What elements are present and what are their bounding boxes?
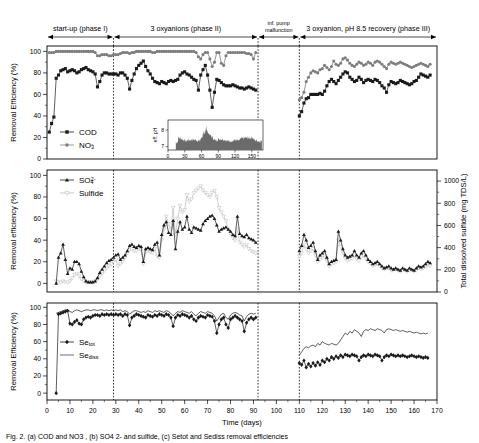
xtick-label-70: 70 xyxy=(204,407,212,414)
legend-panel-a-label-0: COD xyxy=(79,128,97,137)
xtick-label-0: 0 xyxy=(45,407,49,414)
ytick-label-c-20: 20 xyxy=(33,372,41,379)
phase-bar-4-arrow-left xyxy=(300,35,305,39)
inset-ylabel: eff. pH xyxy=(152,127,158,142)
xtick-label-40: 40 xyxy=(135,407,143,414)
ytick-label-b-200-right: 200 xyxy=(444,266,456,273)
panel-b-ylabel: Removal efficiency (%) xyxy=(9,192,18,270)
ytick-label-a-60: 60 xyxy=(33,91,41,98)
legend-panel-a-label-1: NO3- xyxy=(79,141,94,150)
series-c-Sediss xyxy=(56,310,428,355)
legend-panel-c-entry-0 xyxy=(60,340,74,345)
phase-bar-2-arrow-right xyxy=(252,35,257,39)
panel-c-ylabel: Removal Efficiency (%) xyxy=(9,312,18,391)
xtick-label-30: 30 xyxy=(112,407,120,414)
xtick-label-60: 60 xyxy=(181,407,189,414)
inset-xtick-label-60: 60 xyxy=(199,153,205,159)
phase-label-4: 3 oxyanion, pH 8.5 recovery (phase III) xyxy=(306,24,430,33)
phase-label-1: start-up (phase I) xyxy=(53,24,108,33)
ytick-label-a-20: 20 xyxy=(33,134,41,141)
xtick-label-90: 90 xyxy=(250,407,258,414)
series-a-COD xyxy=(48,0,434,134)
ytick-label-c-0: 0 xyxy=(37,390,41,397)
phase-label-3b: malfunction xyxy=(265,27,293,33)
figure-svg: start-up (phase I)3 oxyanions (phase II)… xyxy=(0,0,479,443)
xtick-label-80: 80 xyxy=(227,407,235,414)
figure-container: start-up (phase I)3 oxyanions (phase II)… xyxy=(0,0,479,443)
ytick-label-b-0-right: 0 xyxy=(444,288,448,295)
inset-ytick-label-7: 7 xyxy=(161,143,164,149)
inset-xtick-label-150: 150 xyxy=(248,153,257,159)
ytick-label-c-40: 40 xyxy=(33,355,41,362)
xtick-label-110: 110 xyxy=(294,407,305,414)
xaxis-title: Time (days) xyxy=(222,418,262,427)
ytick-label-a-0: 0 xyxy=(37,155,41,162)
xtick-label-100: 100 xyxy=(271,407,283,414)
inset-xtick-label-120: 120 xyxy=(231,153,240,159)
legend-panel-b-label-1: Sulfide xyxy=(79,189,104,198)
phase-bar-1-arrow-left xyxy=(48,35,53,39)
figure-caption: Fig. 2. (a) COD and NO3 , (b) SO4 2- and… xyxy=(6,433,288,441)
ytick-label-b-0: 0 xyxy=(37,280,41,287)
ytick-label-b-20: 20 xyxy=(33,258,41,265)
panel-b-frame xyxy=(47,170,437,292)
ytick-label-c-60: 60 xyxy=(33,338,41,345)
legend-panel-a-entry-0 xyxy=(60,130,74,133)
legend-panel-b-label-0: SO42- xyxy=(79,176,96,185)
series-b-Sulfide xyxy=(54,185,432,284)
xtick-label-150: 150 xyxy=(385,407,397,414)
inset-xtick-label-30: 30 xyxy=(182,153,188,159)
xtick-label-120: 120 xyxy=(317,407,329,414)
series-line-c-Sediss-1 xyxy=(299,329,427,356)
ytick-label-b-40: 40 xyxy=(33,237,41,244)
series-a-NO3- xyxy=(48,0,434,101)
xtick-label-20: 20 xyxy=(89,407,97,414)
ytick-label-b-1000-right: 1000 xyxy=(444,177,459,184)
panel-a-ylabel: Removal Efficiency (%) xyxy=(9,63,18,142)
series-line-b-Sulfide-0 xyxy=(56,186,256,282)
phase-bar-3-arrow-left xyxy=(259,35,264,39)
legend-panel-c-label-0: Setot xyxy=(79,338,95,347)
legend-panel-b-entry-1 xyxy=(60,192,74,196)
phase-label-3a: inf. pump xyxy=(268,20,290,26)
panel-c-frame xyxy=(47,303,437,400)
ytick-label-c-80: 80 xyxy=(33,321,41,328)
ytick-label-b-80: 80 xyxy=(33,193,41,200)
ytick-label-b-600-right: 600 xyxy=(444,222,456,229)
inset-xtick-label-90: 90 xyxy=(216,153,222,159)
xtick-label-170: 170 xyxy=(431,407,443,414)
xtick-label-50: 50 xyxy=(158,407,166,414)
ytick-label-b-100: 100 xyxy=(30,172,42,179)
xtick-label-130: 130 xyxy=(340,407,352,414)
series-line-b-SO42--1 xyxy=(299,232,430,271)
legend-panel-a-entry-1 xyxy=(60,143,74,146)
series-b-SO42- xyxy=(54,213,432,284)
xtick-label-160: 160 xyxy=(408,407,420,414)
phase-bar-3-arrow-right xyxy=(293,35,298,39)
xtick-label-140: 140 xyxy=(363,407,375,414)
series-c-Setot xyxy=(54,309,429,396)
panel-b-ylabel-right: Total dissolved sulfide (mg TDS/L) xyxy=(459,173,468,289)
ytick-label-c-100: 100 xyxy=(30,304,42,311)
inset-xtick-label-0: 0 xyxy=(167,153,170,159)
ytick-label-b-60: 60 xyxy=(33,215,41,222)
phase-bar-2-arrow-left xyxy=(115,35,120,39)
ytick-label-a-80: 80 xyxy=(33,69,41,76)
ytick-label-b-800-right: 800 xyxy=(444,200,456,207)
ytick-label-a-40: 40 xyxy=(33,112,41,119)
phase-bar-4-arrow-right xyxy=(431,35,436,39)
phase-bar-1-arrow-right xyxy=(108,35,113,39)
xtick-label-10: 10 xyxy=(66,407,74,414)
ytick-label-a-100: 100 xyxy=(30,48,42,55)
legend-panel-b-entry-0 xyxy=(60,178,74,182)
ytick-label-b-400-right: 400 xyxy=(444,244,456,251)
phase-label-2: 3 oxyanions (phase II) xyxy=(150,24,221,33)
legend-panel-c-label-1: Sediss xyxy=(79,351,99,360)
inset-ytick-label-8: 8 xyxy=(161,127,164,133)
